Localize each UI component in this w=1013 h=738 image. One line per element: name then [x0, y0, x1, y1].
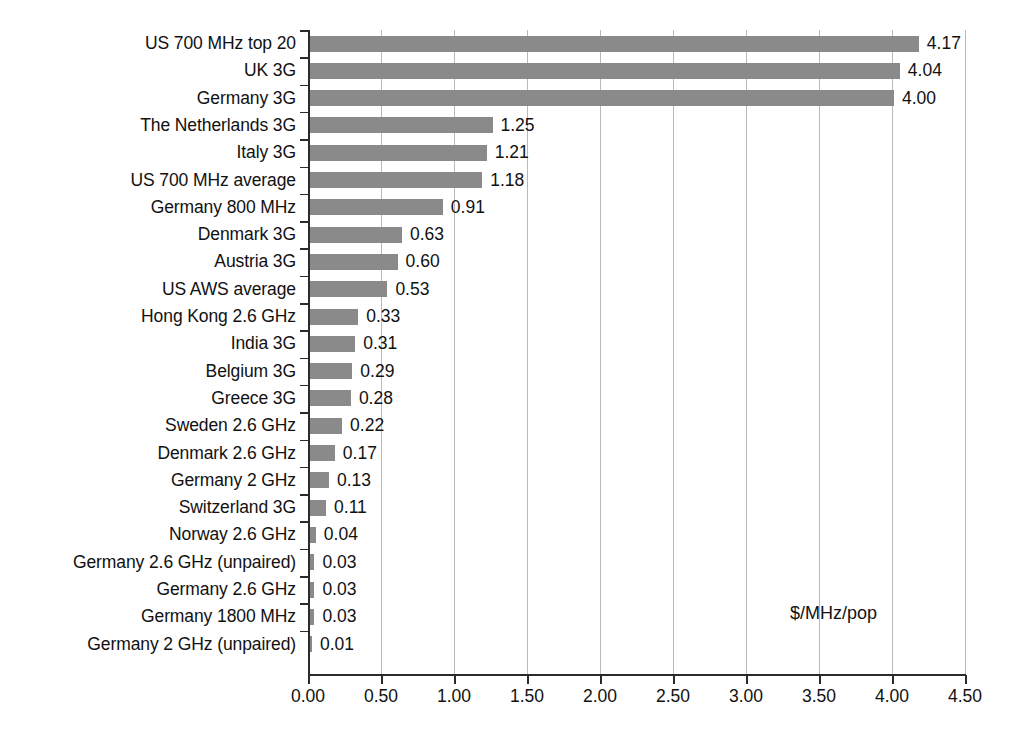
y-axis-tick [300, 521, 309, 523]
x-axis-line [308, 674, 966, 676]
bar [310, 418, 342, 434]
y-axis-tick [300, 330, 309, 332]
chart-row: Belgium 3G0.29 [0, 358, 1013, 385]
category-label: Greece 3G [0, 385, 296, 412]
y-axis-tick [300, 85, 309, 87]
category-label: Denmark 2.6 GHz [0, 440, 296, 467]
bar [310, 390, 351, 406]
chart-row: Germany 2 GHz (unpaired)0.01 [0, 631, 1013, 658]
bar [310, 172, 482, 188]
chart-row: Germany 2 GHz0.13 [0, 467, 1013, 494]
y-axis-tick [300, 194, 309, 196]
bar [310, 527, 316, 543]
category-label: Germany 800 MHz [0, 194, 296, 221]
category-label: Switzerland 3G [0, 494, 296, 521]
y-axis-tick [300, 57, 309, 59]
y-axis-tick [300, 167, 309, 169]
bar [310, 117, 493, 133]
bar [310, 472, 329, 488]
bar-value-label: 1.21 [495, 139, 529, 166]
x-axis-tick-label: 2.00 [583, 686, 617, 707]
category-label: US 700 MHz average [0, 167, 296, 194]
category-label: Germany 2 GHz [0, 467, 296, 494]
category-label: Denmark 3G [0, 221, 296, 248]
y-axis-tick [300, 412, 309, 414]
y-axis-tick [300, 358, 309, 360]
y-axis-tick [300, 549, 309, 551]
bar [310, 63, 900, 79]
axis-unit-annotation: $/MHz/pop [790, 603, 877, 624]
y-axis-tick [300, 248, 309, 250]
bar [310, 90, 894, 106]
x-axis-tick [527, 675, 529, 684]
bar-value-label: 0.03 [322, 576, 356, 603]
y-axis-tick [300, 30, 309, 32]
category-label: Germany 2 GHz (unpaired) [0, 631, 296, 658]
y-axis-tick [300, 221, 309, 223]
chart-row: India 3G0.31 [0, 330, 1013, 357]
x-axis-tick [673, 675, 675, 684]
category-label: Belgium 3G [0, 358, 296, 385]
y-axis-tick [300, 276, 309, 278]
x-axis-tick-label: 2.50 [656, 686, 690, 707]
bar-value-label: 0.29 [360, 358, 394, 385]
category-label: UK 3G [0, 57, 296, 84]
y-axis-tick [300, 303, 309, 305]
chart-row: Sweden 2.6 GHz0.22 [0, 412, 1013, 439]
bar-value-label: 1.25 [501, 112, 535, 139]
category-label: Austria 3G [0, 248, 296, 275]
x-axis-tick-label: 0.50 [364, 686, 398, 707]
x-axis-tick-label: 3.50 [802, 686, 836, 707]
bar-value-label: 0.22 [350, 412, 384, 439]
bar-value-label: 4.00 [902, 85, 936, 112]
chart-row: US AWS average0.53 [0, 276, 1013, 303]
x-axis-tick [819, 675, 821, 684]
bar [310, 145, 487, 161]
bar-value-label: 0.63 [410, 221, 444, 248]
y-axis-tick [300, 576, 309, 578]
category-label: Norway 2.6 GHz [0, 521, 296, 548]
x-axis-tick [965, 675, 967, 684]
chart-row: Austria 3G0.60 [0, 248, 1013, 275]
chart-row: Switzerland 3G0.11 [0, 494, 1013, 521]
bar-value-label: 0.13 [337, 467, 371, 494]
bar-value-label: 0.53 [395, 276, 429, 303]
bar [310, 582, 314, 598]
x-axis-tick [600, 675, 602, 684]
bar [310, 254, 398, 270]
category-label: Germany 1800 MHz [0, 603, 296, 630]
y-axis-tick [300, 385, 309, 387]
y-axis-tick [300, 494, 309, 496]
bar [310, 227, 402, 243]
chart-row: Hong Kong 2.6 GHz0.33 [0, 303, 1013, 330]
bar [310, 309, 358, 325]
category-label: Italy 3G [0, 139, 296, 166]
chart-row: Germany 2.6 GHz0.03 [0, 576, 1013, 603]
bar-value-label: 0.03 [322, 549, 356, 576]
bar [310, 363, 352, 379]
category-label: Germany 3G [0, 85, 296, 112]
category-label: India 3G [0, 330, 296, 357]
category-label: Germany 2.6 GHz (unpaired) [0, 549, 296, 576]
bar [310, 636, 312, 652]
bar [310, 500, 326, 516]
x-axis-tick-label: 1.00 [437, 686, 471, 707]
category-label: Hong Kong 2.6 GHz [0, 303, 296, 330]
bar-value-label: 0.03 [322, 603, 356, 630]
x-axis-tick [892, 675, 894, 684]
bar-chart: US 700 MHz top 204.17UK 3G4.04Germany 3G… [0, 0, 1013, 738]
x-axis-tick [381, 675, 383, 684]
y-axis-tick [300, 139, 309, 141]
y-axis-tick [300, 440, 309, 442]
bar [310, 36, 919, 52]
chart-row: The Netherlands 3G1.25 [0, 112, 1013, 139]
category-label: Germany 2.6 GHz [0, 576, 296, 603]
bar [310, 281, 387, 297]
chart-row: Germany 3G4.00 [0, 85, 1013, 112]
bar [310, 336, 355, 352]
bar-value-label: 0.60 [406, 248, 440, 275]
bar-value-label: 0.33 [366, 303, 400, 330]
bar [310, 554, 314, 570]
x-axis-tick-label: 4.00 [875, 686, 909, 707]
bar-value-label: 0.17 [343, 440, 377, 467]
